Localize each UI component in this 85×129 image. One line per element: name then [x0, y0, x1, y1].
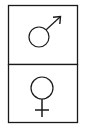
male-option[interactable] — [9, 6, 78, 65]
female-option[interactable] — [9, 65, 78, 123]
gender-selector: Male Female — [0, 0, 85, 129]
